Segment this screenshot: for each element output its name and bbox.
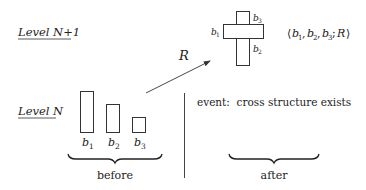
relation-label: R	[178, 48, 189, 63]
svg-text:,: ,	[302, 27, 306, 40]
svg-text:3: 3	[258, 17, 262, 24]
cross-label-b3: b 3	[253, 13, 262, 24]
svg-text:1: 1	[89, 142, 94, 151]
bar-label-b2: b 2	[108, 136, 120, 151]
svg-text:b: b	[108, 136, 115, 149]
svg-text:2: 2	[258, 48, 262, 55]
bar-label-b1: b 1	[82, 136, 94, 151]
svg-text:b: b	[82, 136, 89, 149]
before-brace	[68, 154, 162, 163]
bar-label-b3: b 3	[134, 136, 146, 151]
svg-text:⟩: ⟩	[346, 27, 350, 40]
bar-b1	[81, 92, 94, 133]
relation-tuple: ⟨ b 1 , b 2 , b 3 ; R ⟩	[287, 27, 350, 42]
bar-b2	[107, 105, 120, 133]
after-brace	[229, 154, 319, 163]
level-n-label: Level N	[17, 104, 64, 118]
cross-label-b2: b 2	[253, 44, 262, 55]
before-bars	[81, 92, 146, 133]
level-n-plus-1-label: Level N+1	[17, 25, 80, 39]
svg-text:;: ;	[332, 27, 336, 40]
cross-label-b1: b 1	[211, 27, 220, 38]
cross-horizontal-bar	[224, 25, 264, 39]
svg-text:2: 2	[115, 142, 120, 151]
relation-arrow	[146, 61, 210, 93]
after-caption: after	[261, 169, 289, 182]
svg-text:⟨: ⟨	[287, 27, 291, 40]
svg-text:Level N+1: Level N+1	[17, 25, 80, 39]
svg-text:3: 3	[141, 142, 146, 151]
event-text: event: cross structure exists	[197, 96, 351, 108]
svg-text:,: ,	[317, 27, 321, 40]
svg-text:b: b	[134, 136, 141, 149]
svg-text:R: R	[336, 27, 345, 40]
before-caption: before	[97, 169, 133, 182]
diagram-canvas: Level N+1 Level N b 1 b 2 b 3 before R b…	[0, 0, 366, 190]
svg-text:1: 1	[216, 31, 220, 38]
svg-text:Level N: Level N	[17, 104, 64, 118]
bar-b3	[133, 118, 146, 133]
